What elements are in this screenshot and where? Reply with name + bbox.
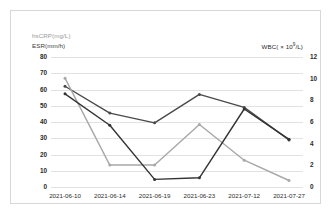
x-tick-label: 2021-06-23	[184, 192, 216, 199]
data-point	[153, 121, 156, 124]
series-layer	[51, 57, 303, 187]
right-axis-label-text: WBC( × 10	[261, 43, 292, 50]
series-line	[65, 86, 289, 140]
data-point	[198, 176, 201, 179]
right-axis-ticks: 121086420	[310, 57, 330, 187]
left-axis-label-hscrp: hsCRP(mg/L)	[32, 32, 71, 39]
data-point	[153, 178, 156, 181]
left-tick-label: 60	[40, 86, 47, 93]
right-tick-label: 12	[310, 53, 317, 60]
data-point	[288, 179, 291, 182]
left-axis-ticks: 80706050403020100	[29, 57, 47, 187]
right-tick-label: 2	[310, 161, 314, 168]
right-tick-label: 0	[310, 183, 314, 190]
x-tick-label: 2021-06-14	[94, 192, 126, 199]
left-tick-label: 10	[40, 167, 47, 174]
data-point	[198, 123, 201, 126]
chart-frame: hsCRP(mg/L) ESR(mm/h) WBC( × 109/L) 8070…	[10, 10, 321, 204]
x-tick-label: 2021-06-10	[49, 192, 81, 199]
chart-figure: hsCRP(mg/L) ESR(mm/h) WBC( × 109/L) 8070…	[0, 0, 331, 214]
data-point	[153, 164, 156, 167]
right-tick-label: 8	[310, 96, 314, 103]
series-left	[64, 85, 291, 142]
x-tick-label: 2021-06-19	[139, 192, 171, 199]
data-point	[288, 138, 291, 141]
series-left	[64, 77, 291, 182]
x-axis-ticks: 2021-06-102021-06-142021-06-192021-06-23…	[51, 192, 303, 204]
left-tick-label: 50	[40, 102, 47, 109]
series-line	[65, 78, 289, 180]
left-axis-label-esr: ESR(mm/h)	[32, 42, 65, 49]
right-axis-label-wbc: WBC( × 109/L)	[261, 42, 303, 50]
data-point	[243, 108, 246, 111]
data-point	[198, 93, 201, 96]
left-tick-label: 30	[40, 134, 47, 141]
x-tick-label: 2021-07-12	[228, 192, 260, 199]
gridline	[51, 187, 303, 188]
right-tick-label: 6	[310, 118, 314, 125]
right-tick-label: 10	[310, 75, 317, 82]
left-tick-label: 80	[40, 53, 47, 60]
left-tick-label: 70	[40, 69, 47, 76]
data-point	[243, 159, 246, 162]
data-point	[64, 77, 67, 80]
left-tick-label: 20	[40, 151, 47, 158]
left-tick-label: 0	[43, 183, 47, 190]
plot-area	[51, 57, 303, 187]
left-tick-label: 40	[40, 118, 47, 125]
data-point	[64, 92, 67, 95]
data-point	[64, 85, 67, 88]
x-tick-label: 2021-07-27	[273, 192, 305, 199]
data-point	[108, 164, 111, 167]
right-tick-label: 4	[310, 140, 314, 147]
right-axis-label-unit: /L)	[295, 43, 303, 50]
data-point	[108, 124, 111, 127]
data-point	[108, 112, 111, 115]
